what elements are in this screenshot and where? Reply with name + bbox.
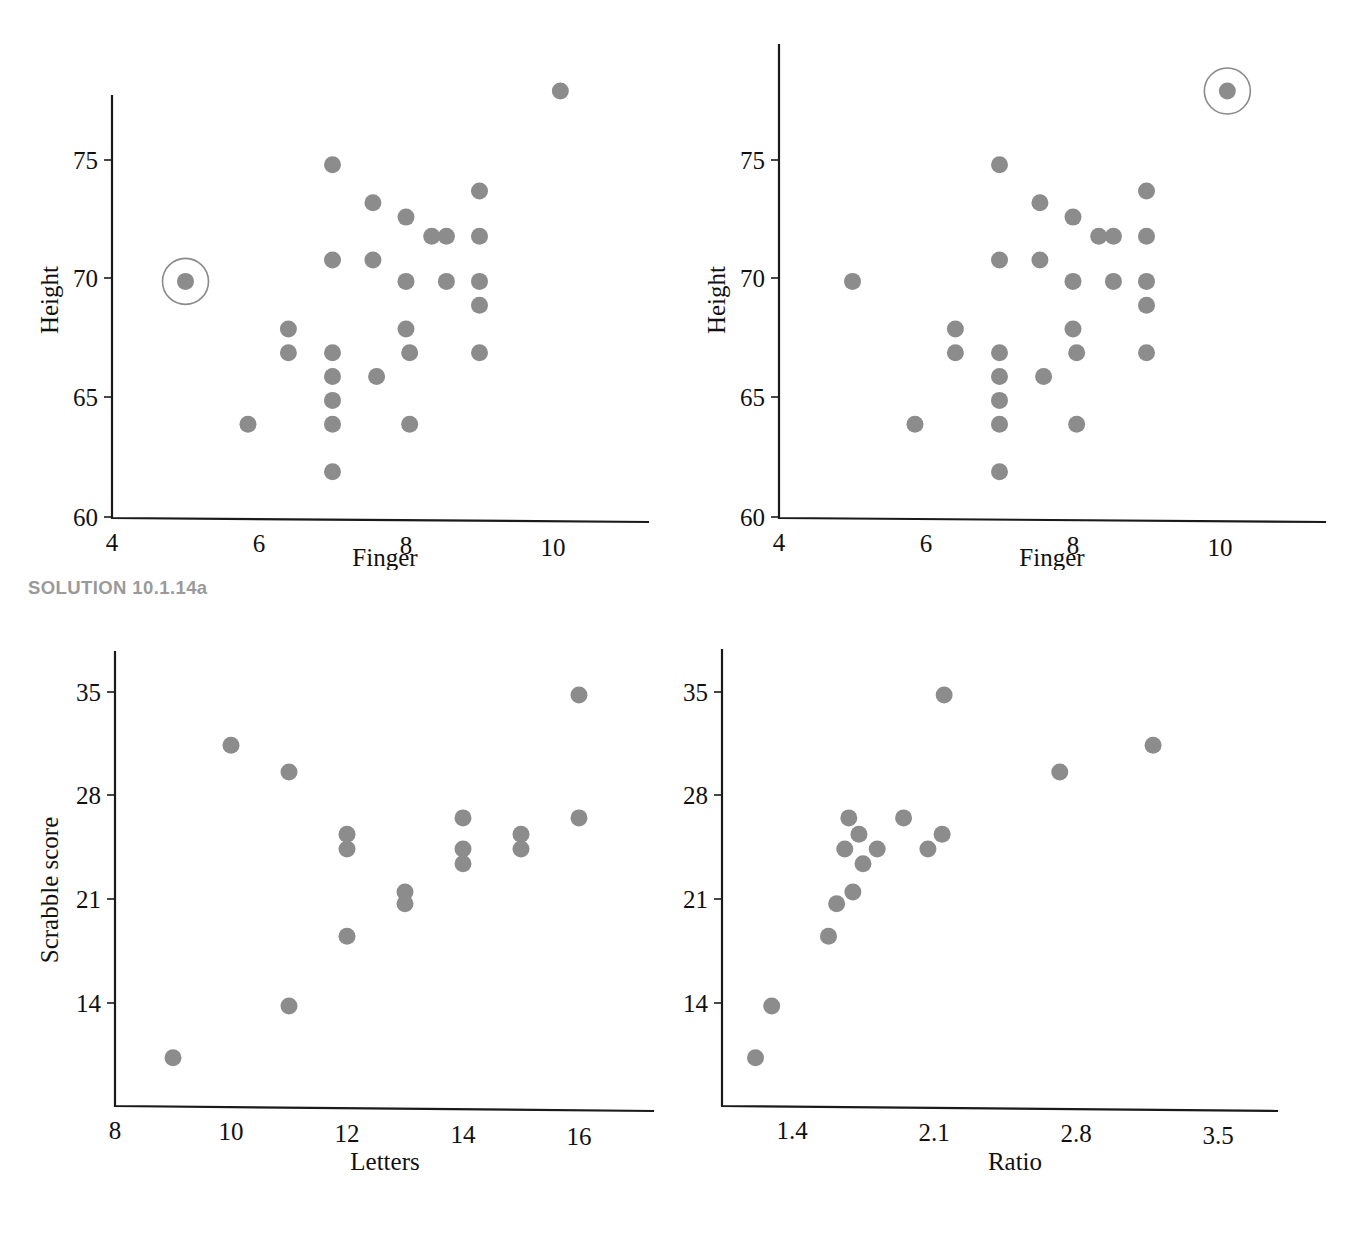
y-tick-label: 65 [73, 384, 98, 411]
x-tick-label: 10 [541, 534, 566, 561]
y-tick-label: 35 [76, 679, 101, 706]
axis-lines [779, 45, 1325, 522]
data-point [763, 997, 780, 1014]
x-tick-label: 8 [109, 1117, 122, 1144]
panel-10-1-14a: 75 70 65 60 4 6 8 10 Finger Height SOLUT… [0, 0, 676, 624]
data-point [471, 182, 488, 199]
data-point [947, 320, 964, 337]
data-point [1051, 763, 1068, 780]
y-tick-label: 75 [73, 147, 98, 174]
data-point [1031, 194, 1048, 211]
data-point [364, 251, 381, 268]
data-point [239, 416, 256, 433]
y-tick-label: 21 [683, 886, 708, 913]
x-axis-title: Finger [1019, 544, 1085, 570]
x-tick-label: 16 [567, 1123, 592, 1150]
x-tick-label: 10 [219, 1118, 244, 1145]
data-point [1138, 228, 1155, 245]
data-point [471, 273, 488, 290]
data-point [991, 368, 1008, 385]
data-point [339, 928, 356, 945]
data-point [850, 826, 867, 843]
axis-lines [112, 96, 648, 522]
data-point [1090, 228, 1107, 245]
data-point [1138, 344, 1155, 361]
data-point [368, 368, 385, 385]
data-point [455, 809, 472, 826]
data-point [1031, 251, 1048, 268]
x-tick-label: 10 [1208, 534, 1233, 561]
y-tick-label: 14 [76, 990, 102, 1017]
y-tick-label: 28 [76, 782, 101, 809]
data-point [324, 368, 341, 385]
data-point [1219, 82, 1236, 99]
data-points [747, 686, 1162, 1066]
x-tick-label: 2.8 [1060, 1120, 1091, 1147]
data-point [836, 840, 853, 857]
data-point [855, 855, 872, 872]
y-axis-title: Scrabble score [36, 817, 63, 963]
data-point [934, 826, 951, 843]
y-axis-title: Height [36, 266, 63, 334]
data-point [401, 416, 418, 433]
data-points [844, 68, 1250, 480]
x-tick-label: 1.4 [776, 1117, 808, 1144]
panel-caption: SOLUTION 10.1.14a [28, 577, 208, 599]
x-tick-label: 2.1 [918, 1119, 949, 1146]
data-point [991, 392, 1008, 409]
data-point [1068, 344, 1085, 361]
y-tick-label: 60 [740, 504, 765, 531]
x-tick-label: 6 [920, 530, 933, 557]
x-tick-label: 4 [106, 529, 119, 556]
data-point [820, 928, 837, 945]
y-axis-title: Height [703, 266, 730, 334]
data-point [571, 686, 588, 703]
data-point [339, 826, 356, 843]
data-point [324, 392, 341, 409]
data-point [991, 156, 1008, 173]
data-point [1065, 273, 1082, 290]
y-tick-label: 21 [76, 886, 101, 913]
y-tick-label: 28 [683, 782, 708, 809]
data-point [936, 686, 953, 703]
data-point [844, 883, 861, 900]
data-point [177, 273, 194, 290]
x-tick-label: 4 [773, 529, 786, 556]
y-tick-label: 75 [740, 147, 765, 174]
data-point [324, 416, 341, 433]
data-point [364, 194, 381, 211]
y-tick-label: 70 [73, 265, 98, 292]
panel-10-1-19d: 35 28 21 14 8 10 12 14 16 Letters Scrabb… [0, 625, 676, 1249]
data-point [844, 273, 861, 290]
axis-lines [722, 650, 1277, 1111]
x-axis-title: Ratio [988, 1148, 1042, 1175]
data-point [398, 320, 415, 337]
data-point [747, 1049, 764, 1066]
y-tick-label: 70 [740, 265, 765, 292]
data-point [223, 737, 240, 754]
x-tick-label: 3.5 [1202, 1122, 1233, 1149]
data-point [455, 855, 472, 872]
data-point [471, 344, 488, 361]
data-point [165, 1049, 182, 1066]
data-point [339, 840, 356, 857]
data-point [1105, 228, 1122, 245]
data-point [401, 344, 418, 361]
data-point [1065, 320, 1082, 337]
data-point [1145, 737, 1162, 754]
data-point [398, 209, 415, 226]
data-point [991, 344, 1008, 361]
data-point [906, 416, 923, 433]
data-point [281, 997, 298, 1014]
x-tick-label: 14 [451, 1121, 477, 1148]
data-point [438, 273, 455, 290]
data-point [455, 840, 472, 857]
panel-10-1-15a: 75 70 65 60 4 6 8 10 Finger Height SOLUT… [677, 0, 1353, 624]
data-point [423, 228, 440, 245]
y-tick-label: 60 [73, 504, 98, 531]
scatter-plot-10-1-20a: 35 28 21 14 1.4 2.1 2.8 3.5 Ratio Scrabb… [677, 625, 1353, 1195]
panel-10-1-20a: 35 28 21 14 1.4 2.1 2.8 3.5 Ratio Scrabb… [677, 625, 1353, 1249]
data-point [281, 763, 298, 780]
data-point [438, 228, 455, 245]
data-point [1105, 273, 1122, 290]
